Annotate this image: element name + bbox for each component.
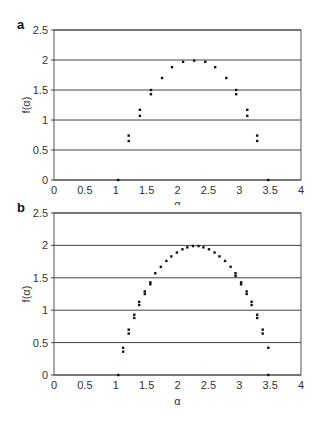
y-tick-label: 1	[42, 304, 48, 316]
x-axis-label: α	[174, 395, 181, 407]
data-point	[262, 332, 264, 334]
data-point	[267, 374, 269, 376]
data-point	[245, 293, 247, 295]
data-point	[117, 374, 119, 376]
data-point	[218, 255, 220, 257]
data-point	[262, 328, 264, 330]
data-point	[186, 246, 188, 248]
x-tick-label: 2.5	[201, 379, 216, 391]
y-tick-label: 2	[42, 239, 48, 251]
y-axis-label: f(α)	[20, 286, 32, 303]
data-point	[245, 290, 247, 292]
data-point	[213, 251, 215, 253]
y-tick-label: 0.5	[33, 337, 48, 349]
data-point	[133, 314, 135, 316]
plot-frame	[54, 213, 301, 375]
data-point	[160, 266, 162, 268]
x-tick-label: 4	[298, 379, 304, 391]
data-point	[208, 248, 210, 250]
data-point	[122, 347, 124, 349]
x-tick-label: 0.5	[77, 379, 92, 391]
y-tick-label: 1.5	[33, 272, 48, 284]
data-point	[202, 246, 204, 248]
data-point	[165, 260, 167, 262]
data-point	[128, 328, 130, 330]
data-point	[176, 251, 178, 253]
data-point	[229, 266, 231, 268]
data-point	[138, 304, 140, 306]
data-point	[122, 350, 124, 352]
x-tick-label: 3	[236, 379, 242, 391]
data-point	[240, 283, 242, 285]
data-point	[138, 301, 140, 303]
data-point	[224, 260, 226, 262]
data-point	[250, 301, 252, 303]
scatter-chart-b: 00.511.522.500.511.522.533.54αf(α)	[0, 0, 318, 423]
data-point	[256, 317, 258, 319]
data-point	[133, 317, 135, 319]
panel-b: b 00.511.522.500.511.522.533.54αf(α)	[0, 0, 318, 423]
data-point	[154, 272, 156, 274]
x-tick-label: 1	[113, 379, 119, 391]
x-tick-label: 3.5	[262, 379, 277, 391]
x-tick-label: 0	[51, 379, 57, 391]
data-point	[181, 248, 183, 250]
data-point	[256, 314, 258, 316]
data-point	[128, 332, 130, 334]
y-tick-label: 2.5	[33, 207, 48, 219]
data-point	[234, 275, 236, 277]
data-point	[192, 245, 194, 247]
data-point	[144, 290, 146, 292]
data-point	[250, 304, 252, 306]
data-point	[197, 245, 199, 247]
data-point	[234, 272, 236, 274]
data-point	[267, 347, 269, 349]
data-point	[149, 283, 151, 285]
x-tick-label: 1.5	[139, 379, 154, 391]
y-tick-label: 0	[42, 369, 48, 381]
data-point	[170, 255, 172, 257]
data-point	[144, 293, 146, 295]
x-tick-label: 2	[174, 379, 180, 391]
